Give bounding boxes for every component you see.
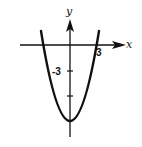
y-axis-label: y [65, 5, 73, 18]
x-intercept-label: 3 [96, 47, 102, 58]
x-axis-label: x [126, 38, 133, 51]
y-tick-label: -3 [52, 66, 61, 77]
parabola-diagram: y x 3 -3 [0, 0, 142, 147]
